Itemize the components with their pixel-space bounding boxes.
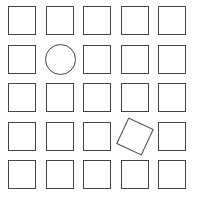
- square-shape: [83, 122, 111, 151]
- circle-shape: [45, 44, 76, 75]
- square-shape: [8, 122, 36, 151]
- square-shape: [121, 45, 149, 74]
- rotated-square-shape: [116, 117, 154, 155]
- square-shape: [83, 83, 111, 112]
- square-shape: [121, 83, 149, 112]
- shape-grid: [0, 0, 198, 207]
- square-shape: [83, 45, 111, 74]
- square-shape: [46, 122, 74, 151]
- square-shape: [46, 83, 74, 112]
- square-shape: [8, 45, 36, 74]
- square-shape: [158, 160, 186, 189]
- square-shape: [158, 45, 186, 74]
- square-shape: [121, 6, 149, 35]
- square-shape: [8, 83, 36, 112]
- square-shape: [8, 6, 36, 35]
- square-shape: [121, 160, 149, 189]
- square-shape: [8, 160, 36, 189]
- square-shape: [158, 6, 186, 35]
- square-shape: [46, 6, 74, 35]
- square-shape: [83, 160, 111, 189]
- square-shape: [46, 160, 74, 189]
- square-shape: [158, 122, 186, 151]
- square-shape: [83, 6, 111, 35]
- square-shape: [158, 83, 186, 112]
